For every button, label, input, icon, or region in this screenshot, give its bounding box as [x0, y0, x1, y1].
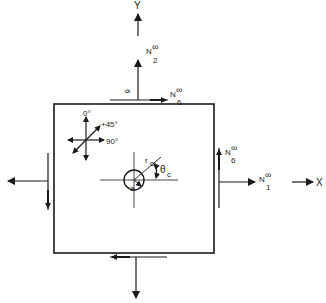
hole-radius-label: a	[130, 184, 135, 193]
rc-label-base: r	[145, 156, 148, 165]
top-rotated-label: 6	[123, 89, 132, 94]
y-axis-arrow: Y	[134, 0, 141, 36]
n1-label-sub: 1	[266, 183, 271, 192]
plate-diagram: Y X N ∞ 2 6 N ∞ 6 N ∞ 6 N ∞ 1	[0, 0, 326, 303]
ply-45-label: +45°	[101, 120, 118, 129]
n6-right-label-sub: 6	[231, 156, 236, 165]
rc-label-sub: c	[150, 159, 154, 168]
n1-label-sup: ∞	[265, 170, 271, 180]
n6-right-shear-arrow: N ∞ 6	[219, 143, 237, 208]
bottom-load-arrows	[110, 257, 167, 298]
x-axis-arrow: X	[292, 177, 323, 188]
n6-top-label-sup: ∞	[176, 85, 182, 95]
ply-orientation-rosette: 0° +45° 90°	[68, 109, 118, 160]
y-axis-label: Y	[134, 0, 141, 11]
hole: a r c θ c	[100, 152, 178, 208]
theta-c-label-base: θ	[160, 164, 166, 175]
theta-c-label-sub: c	[167, 170, 171, 179]
ply-90-label: 90°	[106, 137, 118, 146]
n6-right-label-sup: ∞	[231, 143, 237, 153]
left-load-arrows	[8, 153, 48, 210]
x-axis-label: X	[316, 177, 323, 188]
ply-0-label: 0°	[83, 109, 91, 118]
n6-top-label-sub: 6	[177, 98, 182, 107]
n2-label-sub: 2	[153, 56, 158, 65]
n1-load-arrow: N ∞ 1	[219, 170, 271, 192]
n2-load-arrow: N ∞ 2	[138, 42, 158, 100]
n2-label-sup: ∞	[152, 42, 158, 52]
